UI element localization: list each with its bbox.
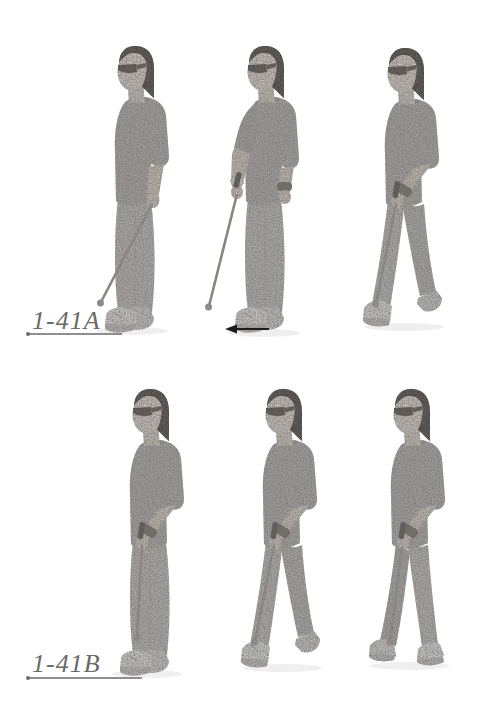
figure-label-a: 1-41A (32, 306, 101, 335)
cane-ball-tip-icon (387, 639, 393, 645)
figure-label-b: 1-41B (32, 649, 101, 678)
cane-ball-tip-icon (251, 639, 257, 645)
cane-ball-tip-icon (205, 304, 211, 310)
cane-ball-tip-icon (134, 634, 140, 640)
cane-ball-tip-icon (372, 301, 378, 307)
document-figure-page: 1-41A 1-41B (0, 0, 502, 713)
figure-illustration-canvas: 1-41A 1-41B (0, 0, 502, 713)
